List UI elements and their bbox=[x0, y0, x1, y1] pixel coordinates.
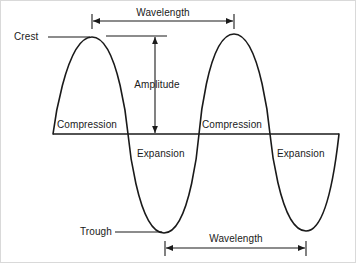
wavelength-top-right-arrowhead bbox=[226, 18, 233, 24]
wavelength-bottom-right-arrowhead bbox=[298, 245, 305, 251]
amplitude-label: Amplitude bbox=[134, 80, 179, 90]
wavelength-bottom-label: Wavelength bbox=[209, 234, 262, 244]
amplitude-top-arrowhead bbox=[152, 37, 158, 44]
wavelength-top-left-arrowhead bbox=[93, 18, 100, 24]
trough-label: Trough bbox=[80, 227, 112, 237]
wavelength-top-label: Wavelength bbox=[136, 8, 189, 18]
compression-left-label: Compression bbox=[57, 120, 117, 130]
crest-label: Crest bbox=[14, 32, 38, 42]
amplitude-bottom-arrowhead bbox=[152, 126, 158, 133]
wave-diagram-figure: Crest Trough Wavelength Wavelength Ampli… bbox=[0, 0, 356, 263]
expansion-right-label: Expansion bbox=[277, 149, 325, 159]
wave-diagram-canvas bbox=[1, 1, 356, 263]
wavelength-bottom-left-arrowhead bbox=[166, 245, 173, 251]
compression-right-label: Compression bbox=[202, 120, 262, 130]
expansion-left-label: Expansion bbox=[137, 149, 185, 159]
